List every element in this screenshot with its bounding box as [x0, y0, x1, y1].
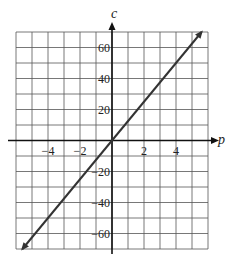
y-tick-label: −40 [91, 196, 110, 210]
line-graph: −4−224 604020−20−40−60 c p [0, 0, 237, 264]
y-tick-label: 60 [98, 41, 110, 55]
x-tick-labels: −4−224 [42, 144, 179, 158]
y-tick-label: 20 [98, 103, 110, 117]
x-tick-label: 2 [141, 144, 147, 158]
x-tick-label: −4 [42, 144, 55, 158]
y-tick-label: −20 [91, 165, 110, 179]
y-axis-label: c [111, 6, 118, 21]
y-tick-label: −60 [91, 227, 110, 241]
x-tick-label: −2 [74, 144, 87, 158]
x-axis-label: p [217, 132, 225, 147]
y-axis-arrow-icon [109, 22, 116, 30]
x-tick-label: 4 [173, 144, 179, 158]
y-tick-label: 40 [98, 72, 110, 86]
